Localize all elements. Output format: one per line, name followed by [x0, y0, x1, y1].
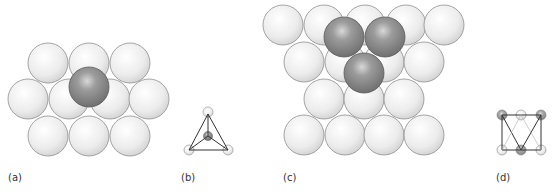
panel-b-tetrahedron: [184, 107, 233, 155]
panel-d-octahedron: [497, 110, 546, 155]
panel-d-label: (d): [496, 172, 510, 183]
octahedral-sphere-3: [344, 53, 384, 93]
panel-b-label: (b): [181, 172, 195, 183]
octahedral-sphere-2: [365, 17, 405, 57]
panel-c-label: (c): [283, 172, 296, 183]
crystal-packing-figure: [0, 0, 558, 192]
panel-a-layer: [8, 43, 169, 156]
panel-a-label: (a): [8, 172, 22, 183]
tetrahedral-sphere: [69, 67, 109, 107]
panel-c-layer: [263, 5, 464, 155]
octahedral-sphere-1: [324, 17, 364, 57]
